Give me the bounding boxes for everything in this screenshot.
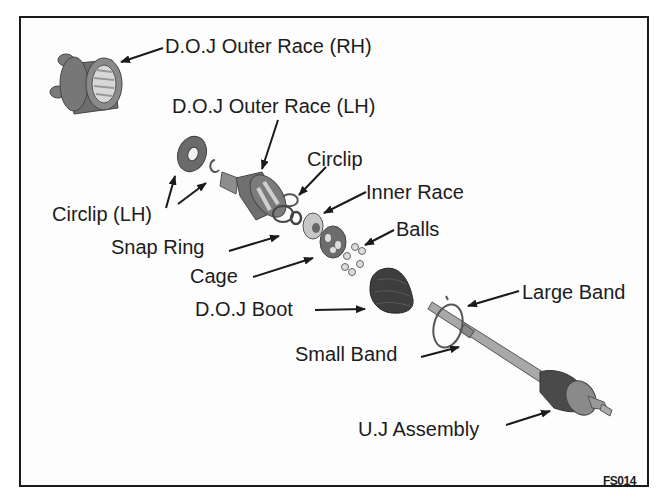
label-snap-ring: Snap Ring: [111, 237, 204, 257]
shaft-part: [428, 302, 546, 382]
figure-code: FS014: [603, 474, 636, 488]
label-circlip: Circlip: [307, 149, 363, 169]
uj-assembly-part: [540, 370, 612, 420]
label-balls: Balls: [396, 219, 439, 239]
label-circlip-lh: Circlip (LH): [52, 204, 152, 224]
label-large-band: Large Band: [522, 282, 625, 302]
label-cage: Cage: [190, 266, 238, 286]
cage-part: [320, 226, 346, 258]
circlip-lh-part: [210, 160, 219, 172]
washer-part: [173, 132, 212, 175]
doj-outer-race-rh-part: [50, 54, 122, 114]
inner-race-part: [303, 213, 323, 239]
label-doj-outer-race-rh: D.O.J Outer Race (RH): [165, 36, 372, 56]
doj-outer-race-lh-part: [220, 168, 293, 223]
exploded-driveshaft-illustration: [0, 0, 664, 499]
doj-boot-part: [370, 268, 413, 313]
label-small-band: Small Band: [295, 344, 397, 364]
label-doj-outer-race-lh: D.O.J Outer Race (LH): [172, 96, 375, 116]
label-uj-assembly: U.J Assembly: [358, 419, 479, 439]
label-inner-race: Inner Race: [366, 182, 464, 202]
label-doj-boot: D.O.J Boot: [195, 299, 293, 319]
